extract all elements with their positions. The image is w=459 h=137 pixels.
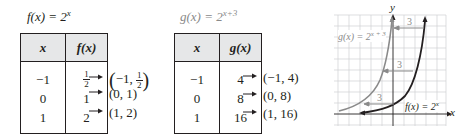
y-axis-label: y xyxy=(390,1,395,13)
f-curve-label-base: f(x) = 2 xyxy=(405,101,436,112)
f-curve-arrow-icon xyxy=(423,16,428,22)
x-axis-label: x xyxy=(450,106,455,118)
f-curve-label: f(x) = 2x xyxy=(405,100,439,112)
shift-label: 3 xyxy=(397,59,402,70)
graph-canvas xyxy=(0,0,459,137)
shift-label: 3 xyxy=(377,92,382,103)
function-graph: y x 3 3 3 g(x) = 2x + 3 f(x) = 2x xyxy=(0,0,459,137)
g-curve-label-exponent: x + 3 xyxy=(371,30,386,38)
shift-label: 3 xyxy=(407,16,412,27)
f-curve-label-exponent: x xyxy=(436,100,439,108)
g-curve-label: g(x) = 2x + 3 xyxy=(338,30,386,42)
g-curve-label-base: g(x) = 2 xyxy=(338,31,371,42)
